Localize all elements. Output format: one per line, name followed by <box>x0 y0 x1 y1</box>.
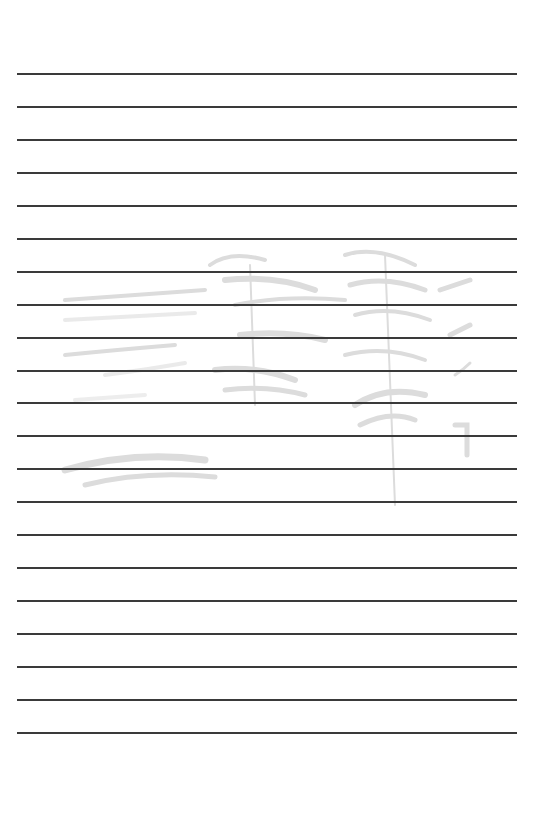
ruled-line-4 <box>17 172 517 174</box>
lined-paper-page <box>0 0 539 813</box>
ruled-line-2 <box>17 106 517 108</box>
ruled-line-9 <box>17 337 517 339</box>
ruled-line-1 <box>17 73 517 75</box>
ruled-line-11 <box>17 402 517 404</box>
ruled-line-8 <box>17 304 517 306</box>
ruled-line-16 <box>17 567 517 569</box>
ruled-line-15 <box>17 534 517 536</box>
faint-sketch-watermark-icon <box>55 245 480 530</box>
ruled-line-6 <box>17 238 517 240</box>
ruled-line-18 <box>17 633 517 635</box>
ruled-line-12 <box>17 435 517 437</box>
ruled-line-7 <box>17 271 517 273</box>
ruled-line-21 <box>17 732 517 734</box>
ruled-line-17 <box>17 600 517 602</box>
ruled-line-13 <box>17 468 517 470</box>
ruled-line-20 <box>17 699 517 701</box>
ruled-line-3 <box>17 139 517 141</box>
ruled-line-10 <box>17 370 517 372</box>
ruled-line-19 <box>17 666 517 668</box>
ruled-line-14 <box>17 501 517 503</box>
ruled-line-5 <box>17 205 517 207</box>
